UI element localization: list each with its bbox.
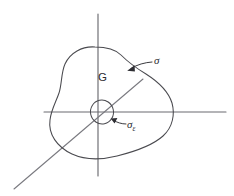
sigma-arrow-head <box>127 65 135 71</box>
inner-boundary-label-sigma-epsilon: σε <box>127 119 135 133</box>
epsilon-subscript-glyph: ε <box>132 124 135 133</box>
figure-canvas: G σ σε <box>0 0 234 196</box>
sigma-epsilon-arrow-head <box>111 118 118 123</box>
axes-group <box>14 14 226 189</box>
outer-boundary-label-sigma: σ <box>154 55 159 66</box>
sigma-epsilon-leader-group <box>111 118 126 124</box>
diagram-svg <box>0 0 234 196</box>
depth-axis <box>14 79 143 189</box>
region-label-g: G <box>98 72 107 84</box>
